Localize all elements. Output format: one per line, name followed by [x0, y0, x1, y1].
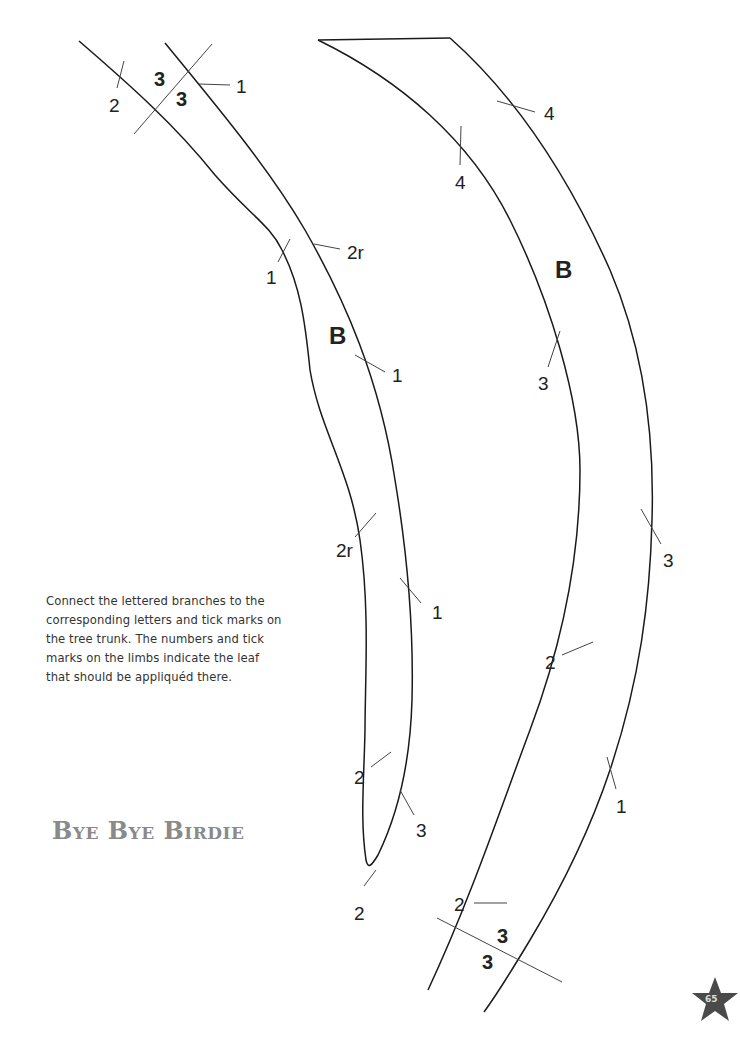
label-3-bottom: 3	[176, 89, 187, 109]
label-4: 4	[544, 104, 555, 123]
label-2: 2	[354, 768, 365, 787]
right-branch-inner-edge	[318, 40, 580, 990]
label-1: 1	[236, 77, 247, 96]
label-1: 1	[266, 268, 277, 287]
label-1: 1	[392, 366, 403, 385]
label-3: 3	[416, 821, 427, 840]
label-1: 1	[432, 603, 443, 622]
branch-letter-b-left: B	[329, 324, 346, 348]
tick-mark	[314, 244, 340, 249]
label-4: 4	[455, 173, 466, 192]
tick-mark	[199, 84, 230, 85]
pattern-title: Bye Bye Birdie	[52, 816, 245, 845]
tick-mark	[400, 578, 421, 603]
label-3: 3	[538, 374, 549, 393]
page-number: 65	[705, 994, 718, 1004]
left-branch-outer-edge	[79, 41, 412, 865]
tick-mark	[548, 331, 560, 367]
tick-mark	[355, 355, 385, 372]
label-1: 1	[616, 797, 627, 816]
tick-mark	[460, 126, 461, 165]
label-2r: 2r	[336, 541, 353, 560]
instructions-text: Connect the lettered branches to the cor…	[46, 592, 286, 687]
label-2: 2	[454, 895, 465, 914]
tick-mark	[400, 790, 414, 815]
label-2r: 2r	[347, 243, 364, 262]
tick-mark	[562, 642, 593, 655]
tick-mark	[278, 239, 290, 262]
branch-letter-b-right: B	[555, 258, 572, 282]
label-3-bottom: 3	[482, 952, 493, 972]
tick-mark	[364, 870, 376, 886]
tick-cross-line	[134, 44, 212, 134]
label-2: 2	[109, 96, 120, 115]
label-3: 3	[663, 551, 674, 570]
tick-mark	[497, 101, 535, 112]
label-2: 2	[545, 653, 556, 672]
tick-mark	[371, 752, 391, 767]
right-branch-top-edge	[318, 38, 450, 40]
label-3-top: 3	[497, 926, 508, 946]
label-2: 2	[354, 904, 365, 923]
label-3-top: 3	[154, 69, 165, 89]
